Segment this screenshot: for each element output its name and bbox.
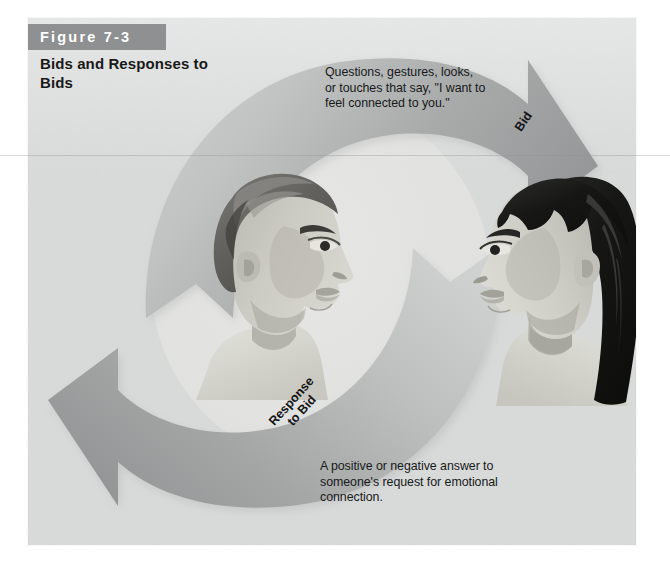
figure-root: Figure 7-3 Bids and Responses to Bids Qu…: [0, 0, 670, 561]
figure-number-label: Figure 7-3: [40, 29, 131, 45]
woman-profile-illustration: [473, 177, 636, 406]
figure-title: Bids and Responses to Bids: [40, 54, 210, 92]
figure-number-badge: Figure 7-3: [28, 24, 166, 50]
response-caption: A positive or negative answer to someone…: [320, 459, 558, 506]
bid-caption: Questions, gestures, looks, or touches t…: [325, 65, 561, 112]
figure-panel: Figure 7-3 Bids and Responses to Bids Qu…: [28, 18, 636, 545]
